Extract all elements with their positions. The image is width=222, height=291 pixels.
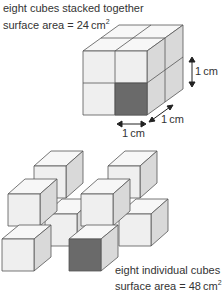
individual-caption-line2: surface area = 48 cm2	[115, 276, 222, 291]
cubes-diagram	[0, 0, 222, 291]
individual-area-text: surface area = 48 cm	[115, 280, 218, 291]
depth-dim-label: 1 cm	[161, 113, 184, 126]
width-dim-label: 1 cm	[122, 127, 145, 140]
height-dim-label: 1 cm	[195, 65, 218, 78]
individual-area-sup: 2	[218, 279, 222, 286]
